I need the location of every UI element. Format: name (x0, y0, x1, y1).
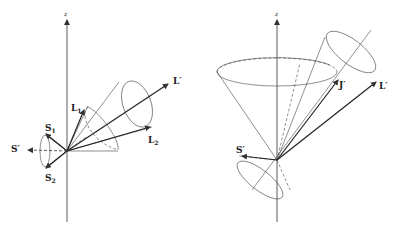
z-axis-label-right: z (274, 10, 279, 17)
label-j-prime: J′ (338, 80, 346, 90)
z-axis-label-left: z (63, 10, 68, 17)
label-l-prime-right: L′ (379, 81, 388, 91)
s-prime-vector-right (242, 156, 277, 160)
l-prime-vector-right (277, 82, 376, 160)
angular-momentum-diagram: z L1 L2 L′ S1 (0, 0, 398, 228)
label-s-prime-right: S′ (236, 145, 245, 155)
label-s-prime-left: S′ (11, 144, 20, 154)
label-s1: S1 (45, 123, 56, 134)
label-l1: L1 (71, 103, 82, 114)
label-l-prime-left: L′ (173, 76, 182, 86)
left-panel: z L1 L2 L′ S1 (11, 10, 182, 222)
j-prime-axis (252, 30, 371, 190)
l2-vector (67, 127, 150, 151)
j-prime-vector (277, 80, 338, 160)
s-cone-right (232, 155, 290, 205)
label-l2: L2 (148, 135, 159, 146)
label-s2: S2 (45, 173, 56, 184)
right-panel: z J′ L′ S′ (217, 10, 388, 222)
s-prime-vector-left (28, 150, 67, 151)
